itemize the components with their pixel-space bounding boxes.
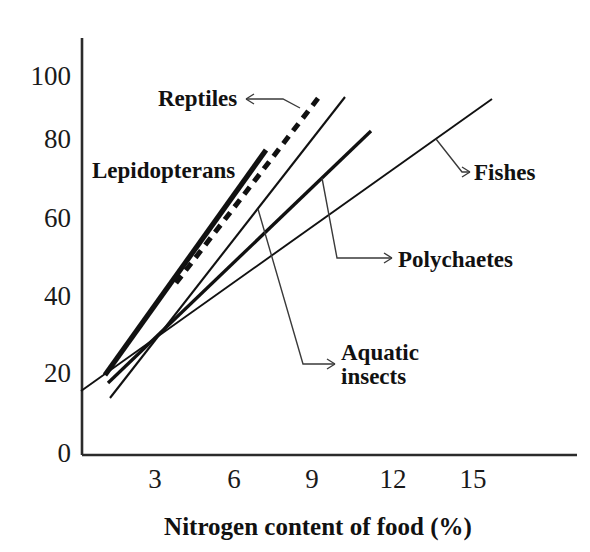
x-axis-tick-labels: 3 6 9 12 15 xyxy=(148,464,486,494)
y-tick-label-40: 40 xyxy=(44,281,71,311)
y-tick-label-60: 60 xyxy=(44,203,71,233)
series-label-lepidopterans: Lepidopterans xyxy=(92,158,235,183)
series-label-reptiles: Reptiles xyxy=(158,86,237,111)
chart-figure: 100 80 60 40 20 0 3 6 9 12 15 xyxy=(0,0,590,552)
y-tick-label-20: 20 xyxy=(44,358,71,388)
nitrogen-content-line-chart: 100 80 60 40 20 0 3 6 9 12 15 xyxy=(0,0,590,552)
callout-aquatic-insects xyxy=(258,209,335,369)
series-label-aquatic-insects-line2: insects xyxy=(341,364,406,389)
series-label-fishes: Fishes xyxy=(474,160,535,185)
x-tick-label-3: 3 xyxy=(148,464,162,494)
y-axis-tick-labels: 100 80 60 40 20 0 xyxy=(31,61,72,468)
callout-polychaetes xyxy=(322,178,392,263)
x-tick-label-9: 9 xyxy=(305,464,319,494)
series-label-polychaetes: Polychaetes xyxy=(398,247,513,272)
y-tick-label-100: 100 xyxy=(31,61,72,91)
series-line-lepidopterans xyxy=(105,150,266,375)
y-tick-label-80: 80 xyxy=(44,124,71,154)
series-line-aquatic-insects xyxy=(110,97,345,398)
x-tick-label-15: 15 xyxy=(460,464,487,494)
callout-fishes xyxy=(436,139,470,177)
callout-reptiles xyxy=(246,94,300,108)
x-axis-title: Nitrogen content of food (%) xyxy=(164,513,472,541)
x-tick-label-12: 12 xyxy=(380,464,407,494)
x-tick-label-6: 6 xyxy=(227,464,241,494)
series-label-aquatic-insects-line1: Aquatic xyxy=(341,340,419,365)
series-line-reptiles xyxy=(176,97,319,283)
y-tick-label-0: 0 xyxy=(58,438,72,468)
